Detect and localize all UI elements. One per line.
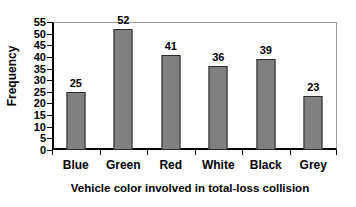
y-axis-tick-label: 30 [22,75,46,85]
bar[interactable] [66,92,85,150]
x-axis-tick-mark [336,150,337,155]
bar[interactable] [304,96,323,150]
y-axis-tick-label: 25 [22,87,46,97]
y-axis-tick-labels: 0510152025303540455055 [22,16,46,152]
x-axis-category-label: White [202,158,235,172]
x-axis-tick-mark [52,150,53,155]
y-axis-tick-label: 55 [22,17,46,27]
bar-value-label: 52 [117,15,129,26]
x-axis-category-label: Grey [300,158,327,172]
bar[interactable] [114,29,133,150]
x-axis-tick-mark [290,150,291,155]
y-axis-title: Frequency [0,0,24,152]
y-axis-tick-label: 45 [22,40,46,50]
y-axis-title-text: Frequency [5,46,19,107]
bar-group[interactable]: 52 [100,22,148,150]
x-axis-tick-mark [100,150,101,155]
x-axis-category-labels: BlueGreenRedWhiteBlackGrey [52,158,337,174]
bar-value-label: 36 [212,52,224,63]
bar-value-label: 41 [165,41,177,52]
bar[interactable] [161,55,180,150]
y-axis-tick-label: 10 [22,122,46,132]
x-axis-category-label: Green [106,158,141,172]
bar-group[interactable]: 25 [52,22,100,150]
x-axis-category-label: Red [159,158,182,172]
x-axis-tick-mark [147,150,148,155]
y-axis-tick-label: 35 [22,64,46,74]
bar[interactable] [256,59,275,150]
y-axis-tick-label: 40 [22,52,46,62]
bar-value-label: 39 [260,45,272,56]
y-axis-tick-label: 0 [22,145,46,155]
bar-group[interactable]: 36 [195,22,243,150]
y-axis-tick-label: 50 [22,29,46,39]
y-axis-tick-label: 15 [22,110,46,120]
x-axis-tick-marks [52,150,337,155]
bar-value-label: 25 [70,78,82,89]
y-axis-tick-label: 5 [22,133,46,143]
bar-value-label: 23 [307,82,319,93]
bars-layer: 255241363923 [52,22,337,150]
bar[interactable] [209,66,228,150]
bar-chart: Frequency 0510152025303540455055 2552413… [0,0,356,207]
x-axis-category-label: Black [250,158,282,172]
x-axis-tick-mark [195,150,196,155]
y-axis-tick-label: 20 [22,98,46,108]
x-axis-tick-mark [242,150,243,155]
bar-group[interactable]: 23 [290,22,338,150]
bar-group[interactable]: 41 [147,22,195,150]
x-axis-category-label: Blue [63,158,89,172]
bar-group[interactable]: 39 [242,22,290,150]
x-axis-title: Vehicle color involved in total-loss col… [40,182,340,194]
